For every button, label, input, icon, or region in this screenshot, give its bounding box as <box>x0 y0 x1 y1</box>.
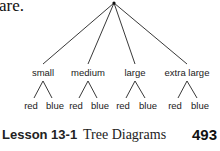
page-footer: Lesson 13-1 Tree Diagrams 493 <box>0 127 220 147</box>
tree-edges <box>34 3 197 98</box>
leaf-extra-large-blue: blue <box>191 100 209 111</box>
page-number: 493 <box>192 126 217 143</box>
leaf-small-blue: blue <box>46 100 64 111</box>
edge-root-medium <box>88 3 114 64</box>
node-large: large <box>124 67 145 78</box>
node-medium: medium <box>71 67 105 78</box>
node-small: small <box>32 67 54 78</box>
root-node <box>112 1 115 4</box>
leaf-large-blue: blue <box>139 100 157 111</box>
edge-root-small <box>43 3 114 64</box>
leaf-medium-blue: blue <box>91 100 109 111</box>
node-extra-large: extra large <box>165 67 210 78</box>
lesson-title: Tree Diagrams <box>83 127 166 143</box>
leaf-extra-large-red: red <box>168 100 182 111</box>
leaf-large-red: red <box>116 100 130 111</box>
lesson-number: Lesson 13-1 <box>2 127 77 142</box>
leaf-small-red: red <box>24 100 38 111</box>
leaf-medium-red: red <box>69 100 83 111</box>
